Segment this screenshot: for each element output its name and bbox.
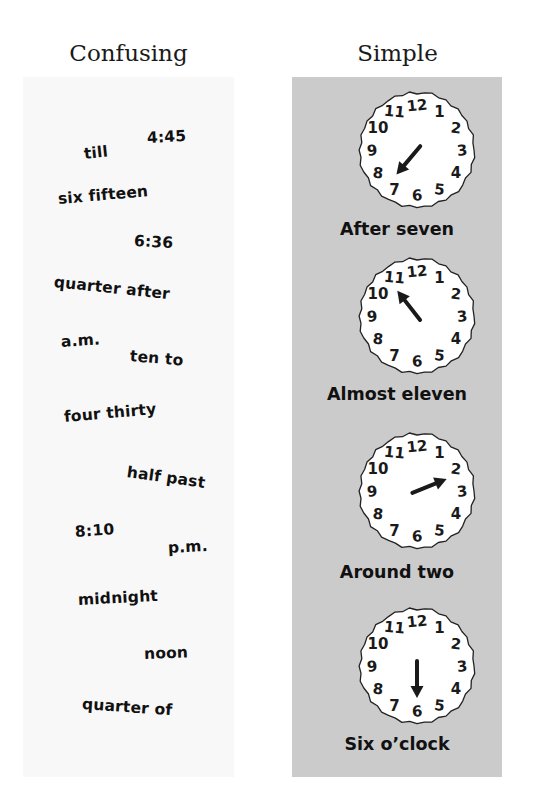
header-simple: Simple xyxy=(292,40,503,66)
clock-number: 12 xyxy=(406,436,429,456)
confusing-time-phrase: six fifteen xyxy=(57,182,149,208)
clock-caption: After seven xyxy=(292,219,502,239)
clock-number: 1 xyxy=(434,103,444,121)
clock-number: 9 xyxy=(366,482,378,501)
clock-number: 5 xyxy=(433,346,445,365)
clock-number: 2 xyxy=(450,285,462,304)
clock-number: 8 xyxy=(372,680,384,699)
clock-number: 1 xyxy=(434,444,444,462)
header-confusing: Confusing xyxy=(23,40,234,66)
clock-number: 3 xyxy=(456,307,468,326)
confusing-time-phrase: half past xyxy=(126,463,207,492)
clock-number: 7 xyxy=(389,181,399,199)
clock-number: 11 xyxy=(383,267,406,287)
clock-number: 8 xyxy=(372,330,384,349)
clock-number: 10 xyxy=(368,285,389,303)
clock-number: 10 xyxy=(368,119,389,137)
confusing-time-phrase: ten to xyxy=(129,347,184,370)
confusing-time-phrase: 6:36 xyxy=(134,232,174,252)
confusing-panel: 4:45tillsix fifteen6:36quarter aftera.m.… xyxy=(23,77,234,777)
clock-number: 8 xyxy=(372,164,384,183)
clock-number: 6 xyxy=(411,702,423,721)
clock-number: 7 xyxy=(389,347,399,365)
clock-number: 1 xyxy=(434,619,444,637)
clock-number: 7 xyxy=(389,522,399,540)
confusing-time-phrase: 4:45 xyxy=(147,127,187,147)
clock-number: 2 xyxy=(450,119,462,138)
clock-icon: 121234567891011 xyxy=(352,85,482,215)
clock-number: 11 xyxy=(383,101,406,121)
clock-number: 6 xyxy=(411,352,423,371)
clock-number: 5 xyxy=(433,696,445,715)
confusing-time-phrase: midnight xyxy=(78,587,159,609)
clock-number: 9 xyxy=(366,657,378,676)
clock-number: 11 xyxy=(383,442,406,462)
clock-number: 3 xyxy=(456,141,468,160)
clock-icon: 121234567891011 xyxy=(352,251,482,381)
clock-number: 5 xyxy=(433,180,445,199)
clock-number: 9 xyxy=(366,307,378,326)
confusing-time-phrase: till xyxy=(83,143,109,163)
clock-number: 6 xyxy=(411,527,423,546)
clock-number: 4 xyxy=(451,330,461,348)
clock-icon: 121234567891011 xyxy=(352,601,482,731)
clock-number: 4 xyxy=(451,680,461,698)
confusing-time-phrase: quarter of xyxy=(81,695,173,719)
clock-number: 2 xyxy=(450,460,462,479)
clock-number: 4 xyxy=(451,505,461,523)
clock-number: 1 xyxy=(434,269,444,287)
clock-icon: 121234567891011 xyxy=(352,426,482,556)
simple-panel: 121234567891011After seven12123456789101… xyxy=(292,77,502,777)
clock-caption: Around two xyxy=(292,562,502,582)
clock-number: 3 xyxy=(456,482,468,501)
confusing-time-phrase: 8:10 xyxy=(74,520,115,541)
clock-number: 12 xyxy=(406,611,429,631)
clock-number: 12 xyxy=(406,95,429,115)
clock-number: 12 xyxy=(406,261,429,281)
clock-number: 6 xyxy=(411,186,423,205)
clock-number: 10 xyxy=(368,460,389,478)
clock-number: 4 xyxy=(451,164,461,182)
confusing-time-phrase: four thirty xyxy=(63,400,157,426)
confusing-time-phrase: quarter after xyxy=(53,273,171,303)
clock-number: 8 xyxy=(372,505,384,524)
clock-number: 3 xyxy=(456,657,468,676)
clock-caption: Six o’clock xyxy=(292,734,502,754)
clock-number: 5 xyxy=(433,521,445,540)
clock-number: 2 xyxy=(450,635,462,654)
clock-number: 11 xyxy=(383,617,406,637)
confusing-time-phrase: a.m. xyxy=(60,330,100,351)
confusing-time-phrase: p.m. xyxy=(168,537,209,557)
clock-caption: Almost eleven xyxy=(292,384,502,404)
clock-number: 7 xyxy=(389,697,399,715)
clock-number: 10 xyxy=(368,635,389,653)
confusing-time-phrase: noon xyxy=(144,643,189,663)
clock-number: 9 xyxy=(366,141,378,160)
